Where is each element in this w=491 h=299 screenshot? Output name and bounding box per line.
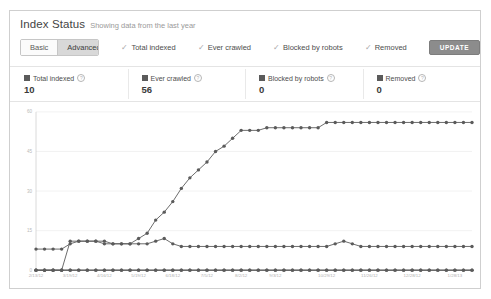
chart-data-point[interactable] [214, 245, 217, 248]
chart-data-point[interactable] [368, 245, 371, 248]
chart-data-point[interactable] [308, 245, 311, 248]
chart-data-point[interactable] [462, 245, 465, 248]
chart-data-point[interactable] [248, 245, 251, 248]
view-mode-segmented-control[interactable]: Basic Advanced [20, 39, 99, 56]
chart-data-point[interactable] [428, 121, 431, 124]
chart-data-point[interactable] [77, 269, 80, 272]
chart-data-point[interactable] [410, 121, 413, 124]
chart-data-point[interactable] [222, 245, 225, 248]
chart-data-point[interactable] [376, 269, 379, 272]
chart-data-point[interactable] [359, 245, 362, 248]
chart-data-point[interactable] [445, 269, 448, 272]
help-icon[interactable]: ? [77, 74, 85, 82]
chart-data-point[interactable] [342, 269, 345, 272]
chart-data-point[interactable] [145, 242, 148, 245]
filter-removed[interactable]: ✓ Removed [365, 43, 407, 52]
chart-data-point[interactable] [376, 245, 379, 248]
chart-data-point[interactable] [453, 245, 456, 248]
chart-data-point[interactable] [257, 245, 260, 248]
chart-data-point[interactable] [462, 269, 465, 272]
chart-data-point[interactable] [282, 245, 285, 248]
chart-data-point[interactable] [453, 121, 456, 124]
chart-data-point[interactable] [34, 269, 37, 272]
chart-data-point[interactable] [325, 245, 328, 248]
chart-data-point[interactable] [419, 121, 422, 124]
chart-data-point[interactable] [402, 245, 405, 248]
chart-data-point[interactable] [248, 129, 251, 132]
chart-data-point[interactable] [137, 269, 140, 272]
chart-data-point[interactable] [291, 245, 294, 248]
chart-data-point[interactable] [385, 269, 388, 272]
chart-data-point[interactable] [291, 126, 294, 129]
chart-data-point[interactable] [316, 245, 319, 248]
chart-data-point[interactable] [385, 245, 388, 248]
chart-data-point[interactable] [316, 269, 319, 272]
chart-data-point[interactable] [43, 269, 46, 272]
chart-data-point[interactable] [120, 269, 123, 272]
chart-data-point[interactable] [163, 269, 166, 272]
chart-data-point[interactable] [410, 245, 413, 248]
chart-data-point[interactable] [257, 269, 260, 272]
chart-data-point[interactable] [308, 126, 311, 129]
chart-data-point[interactable] [419, 245, 422, 248]
filter-ever-crawled[interactable]: ✓ Ever crawled [198, 43, 251, 52]
chart-data-point[interactable] [145, 269, 148, 272]
chart-data-point[interactable] [265, 245, 268, 248]
chart-data-point[interactable] [60, 247, 63, 250]
chart-data-point[interactable] [51, 247, 54, 250]
chart-data-point[interactable] [316, 126, 319, 129]
chart-data-point[interactable] [137, 237, 140, 240]
chart-data-point[interactable] [188, 269, 191, 272]
chart-data-point[interactable] [342, 239, 345, 242]
chart-data-point[interactable] [299, 245, 302, 248]
chart-data-point[interactable] [60, 269, 63, 272]
chart-data-point[interactable] [86, 269, 89, 272]
chart-data-point[interactable] [43, 247, 46, 250]
chart-data-point[interactable] [68, 269, 71, 272]
chart-data-point[interactable] [393, 121, 396, 124]
chart-data-point[interactable] [402, 269, 405, 272]
chart-data-point[interactable] [368, 121, 371, 124]
chart-data-point[interactable] [171, 269, 174, 272]
chart-data-point[interactable] [385, 121, 388, 124]
chart-data-point[interactable] [103, 269, 106, 272]
chart-data-point[interactable] [470, 269, 473, 272]
chart-data-point[interactable] [334, 121, 337, 124]
chart-data-point[interactable] [325, 121, 328, 124]
chart-data-point[interactable] [154, 239, 157, 242]
chart-data-point[interactable] [94, 239, 97, 242]
chart-data-point[interactable] [325, 269, 328, 272]
chart-data-point[interactable] [145, 232, 148, 235]
chart-data-point[interactable] [274, 245, 277, 248]
index-status-chart[interactable]: 0153045602/13/123/19/124/16/125/19/126/1… [10, 101, 480, 288]
chart-data-point[interactable] [393, 245, 396, 248]
chart-data-point[interactable] [68, 242, 71, 245]
chart-data-point[interactable] [77, 239, 80, 242]
chart-data-point[interactable] [214, 269, 217, 272]
chart-data-point[interactable] [103, 242, 106, 245]
chart-data-point[interactable] [188, 245, 191, 248]
advanced-view-button[interactable]: Advanced [57, 40, 99, 55]
chart-data-point[interactable] [257, 129, 260, 132]
chart-data-point[interactable] [214, 150, 217, 153]
chart-data-point[interactable] [265, 269, 268, 272]
chart-data-point[interactable] [453, 269, 456, 272]
chart-data-point[interactable] [163, 210, 166, 213]
chart-data-point[interactable] [180, 245, 183, 248]
chart-data-point[interactable] [299, 126, 302, 129]
chart-data-point[interactable] [428, 269, 431, 272]
basic-view-button[interactable]: Basic [21, 40, 57, 55]
chart-data-point[interactable] [445, 121, 448, 124]
chart-data-point[interactable] [111, 269, 114, 272]
chart-data-point[interactable] [188, 176, 191, 179]
chart-data-point[interactable] [239, 245, 242, 248]
chart-data-point[interactable] [359, 269, 362, 272]
help-icon[interactable]: ? [418, 74, 426, 82]
chart-data-point[interactable] [334, 269, 337, 272]
chart-data-point[interactable] [436, 245, 439, 248]
chart-data-point[interactable] [334, 242, 337, 245]
chart-canvas[interactable]: 0153045602/13/123/19/124/16/125/19/126/1… [10, 102, 480, 288]
chart-data-point[interactable] [34, 247, 37, 250]
chart-data-point[interactable] [299, 269, 302, 272]
chart-data-point[interactable] [222, 269, 225, 272]
